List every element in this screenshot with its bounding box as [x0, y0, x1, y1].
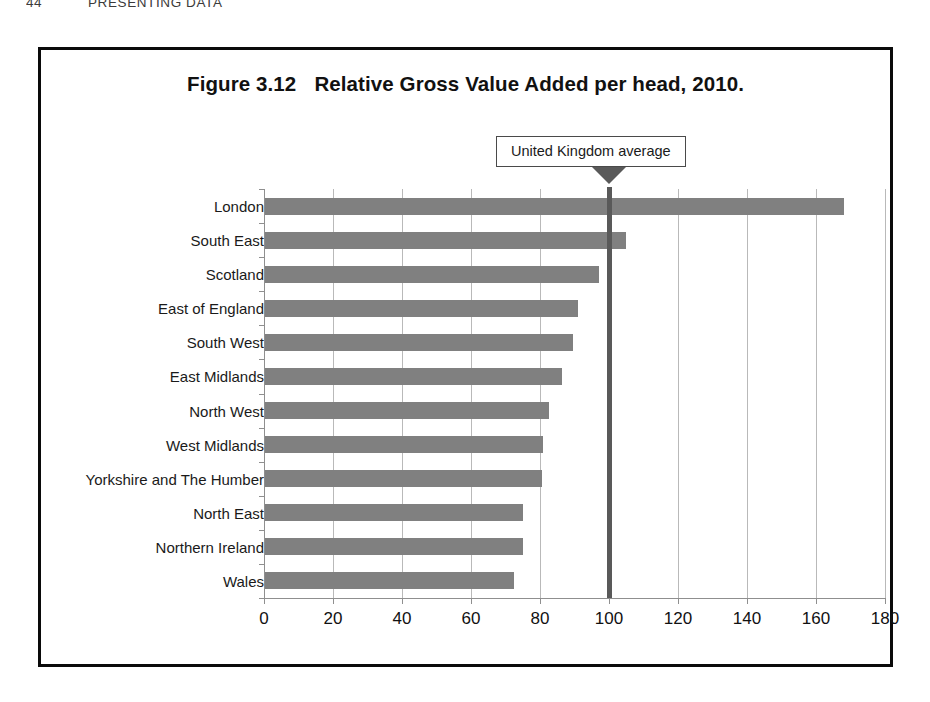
- x-axis-tick-label: 180: [871, 609, 899, 629]
- x-axis-tick: [264, 598, 265, 604]
- bar: [265, 198, 844, 215]
- uk-average-pointer-icon: [592, 167, 626, 184]
- x-axis-tick-label: 120: [664, 609, 692, 629]
- x-axis-tick-label: 20: [324, 609, 343, 629]
- bar: [265, 572, 514, 589]
- x-axis-tick: [609, 598, 610, 604]
- uk-average-reference-line: [607, 187, 612, 598]
- y-axis-category-label: Wales: [223, 574, 264, 589]
- x-axis-tick: [816, 598, 817, 604]
- x-gridline: [471, 189, 472, 598]
- y-axis-tick: [259, 462, 264, 463]
- x-axis-tick-label: 140: [733, 609, 761, 629]
- page-root: 44PRESENTING DATA Figure 3.12Relative Gr…: [0, 0, 930, 702]
- y-axis-category-label: East Midlands: [170, 369, 264, 384]
- bar: [265, 538, 523, 555]
- bar: [265, 300, 578, 317]
- x-axis-tick: [885, 598, 886, 604]
- x-axis-tick-label: 100: [595, 609, 623, 629]
- y-axis-category-labels: LondonSouth EastScotlandEast of EnglandS…: [29, 189, 264, 598]
- x-axis-tick: [678, 598, 679, 604]
- y-axis-category-label: North West: [189, 404, 264, 419]
- y-axis-tick: [259, 564, 264, 565]
- y-axis-tick: [259, 359, 264, 360]
- y-axis-tick: [259, 394, 264, 395]
- x-gridline: [747, 189, 748, 598]
- y-axis-tick: [259, 325, 264, 326]
- x-axis-tick: [540, 598, 541, 604]
- x-gridline: [402, 189, 403, 598]
- y-axis-tick: [259, 530, 264, 531]
- y-axis-category-label: East of England: [158, 301, 264, 316]
- y-axis-tick: [259, 257, 264, 258]
- x-gridline: [678, 189, 679, 598]
- plot-region: 020406080100120140160180: [264, 189, 885, 598]
- x-axis-tick-label: 80: [531, 609, 550, 629]
- y-axis-tick: [259, 496, 264, 497]
- bar: [265, 470, 542, 487]
- figure-frame: Figure 3.12Relative Gross Value Added pe…: [38, 47, 893, 667]
- running-head: 44PRESENTING DATA: [26, 0, 446, 11]
- y-axis-tick: [259, 189, 264, 190]
- bar: [265, 436, 543, 453]
- y-axis-tick: [259, 223, 264, 224]
- bar: [265, 266, 599, 283]
- x-axis-tick-label: 60: [462, 609, 481, 629]
- y-axis-line: [264, 189, 265, 598]
- bar: [265, 334, 573, 351]
- x-axis-tick: [333, 598, 334, 604]
- y-axis-category-label: South West: [187, 335, 264, 350]
- y-axis-category-label: North East: [193, 506, 264, 521]
- y-axis-category-label: West Midlands: [166, 438, 264, 453]
- x-axis-tick: [471, 598, 472, 604]
- x-axis-tick: [747, 598, 748, 604]
- bar: [265, 368, 562, 385]
- y-axis-category-label: London: [214, 199, 264, 214]
- x-axis-line: [264, 598, 885, 599]
- bar: [265, 402, 549, 419]
- x-axis-tick-label: 0: [259, 609, 268, 629]
- running-head-title: PRESENTING DATA: [88, 0, 223, 10]
- y-axis-category-label: South East: [191, 233, 264, 248]
- y-axis-category-label: Yorkshire and The Humber: [86, 472, 264, 487]
- uk-average-label: United Kingdom average: [511, 143, 671, 159]
- y-axis-category-label: Scotland: [206, 267, 264, 282]
- x-axis-tick-label: 40: [393, 609, 412, 629]
- chart-area: LondonSouth EastScotlandEast of EnglandS…: [41, 50, 896, 670]
- page-folio: 44: [26, 0, 88, 10]
- x-gridline: [816, 189, 817, 598]
- y-axis-category-label: Northern Ireland: [156, 540, 264, 555]
- y-axis-tick: [259, 428, 264, 429]
- uk-average-callout-box: United Kingdom average: [496, 136, 686, 167]
- x-gridline: [885, 189, 886, 598]
- x-axis-tick-label: 160: [802, 609, 830, 629]
- x-gridline: [540, 189, 541, 598]
- y-axis-tick: [259, 291, 264, 292]
- bar: [265, 504, 523, 521]
- y-axis-tick: [259, 598, 264, 599]
- x-gridline: [333, 189, 334, 598]
- x-axis-tick: [402, 598, 403, 604]
- bar: [265, 232, 626, 249]
